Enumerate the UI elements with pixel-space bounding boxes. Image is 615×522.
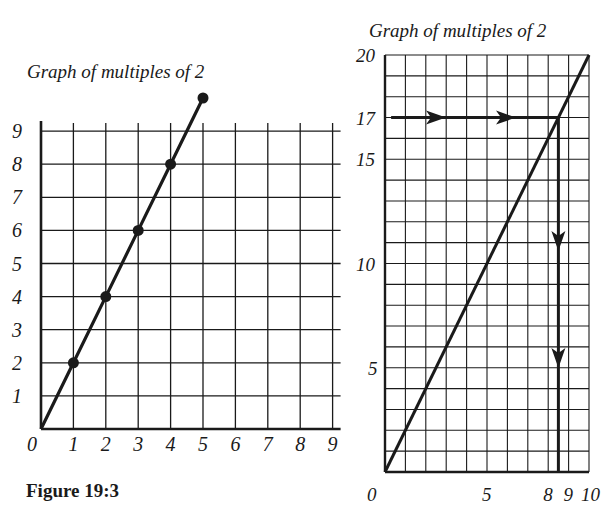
right-chart: Graph of multiples of 2510151720058910 — [356, 20, 601, 505]
x-tick-label: 8 — [543, 484, 553, 505]
y-tick-label: 15 — [356, 149, 375, 170]
y-tick-label: 8 — [12, 153, 22, 175]
x-tick-label: 8 — [295, 433, 305, 455]
left-chart: Graph of multiples of 212345678901234567… — [11, 61, 341, 455]
y-tick-label: 6 — [12, 219, 22, 241]
x-tick-label: 3 — [132, 433, 143, 455]
y-tick-label: 5 — [368, 358, 378, 379]
y-tick-label: 2 — [12, 352, 22, 374]
x-tick-label: 0 — [27, 433, 37, 455]
right-chart-title: Graph of multiples of 2 — [369, 20, 547, 41]
left-chart-title: Graph of multiples of 2 — [27, 61, 205, 82]
x-tick-label: 6 — [230, 433, 240, 455]
x-tick-label: 5 — [482, 484, 492, 505]
y-tick-label: 5 — [12, 253, 22, 275]
figure-caption: Figure 19:3 — [26, 480, 119, 501]
x-tick-label: 4 — [166, 433, 176, 455]
y-tick-label: 3 — [11, 319, 22, 341]
x-tick-label: 9 — [564, 484, 574, 505]
data-point-marker — [133, 225, 144, 236]
x-tick-label: 1 — [68, 433, 78, 455]
data-point-marker — [165, 159, 176, 170]
y-tick-label: 20 — [356, 45, 376, 66]
x-tick-label: 10 — [581, 484, 601, 505]
y-tick-label: 4 — [12, 286, 22, 308]
data-point-marker — [68, 357, 79, 368]
x-tick-label: 2 — [101, 433, 111, 455]
y-tick-label: 17 — [356, 108, 377, 129]
x-tick-label: 9 — [328, 433, 338, 455]
x-tick-label: 5 — [198, 433, 208, 455]
x-tick-label: 0 — [367, 484, 377, 505]
y-tick-label: 7 — [12, 186, 23, 208]
y-tick-label: 1 — [12, 385, 22, 407]
y-tick-label: 10 — [356, 254, 376, 275]
data-point-marker — [100, 291, 111, 302]
x-tick-label: 7 — [263, 433, 274, 455]
data-point-marker — [198, 93, 209, 104]
y-tick-label: 9 — [12, 120, 22, 142]
